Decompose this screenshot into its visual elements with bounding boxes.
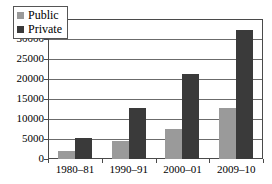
x-tick-label: 2009–10 xyxy=(209,163,263,183)
x-tick-mark xyxy=(156,159,157,163)
legend-item-private: Private xyxy=(17,22,62,36)
bar-public-2000–01 xyxy=(165,129,182,159)
legend-label-public: Public xyxy=(28,9,59,21)
x-tick-label: 1980–81 xyxy=(48,163,102,183)
x-tick-label: 2000–01 xyxy=(156,163,210,183)
bar-private-2009–10 xyxy=(236,30,253,159)
legend-swatch-public-icon xyxy=(17,12,24,19)
bar-chart: 05000100001500020000250003000035000 Publ… xyxy=(0,0,272,184)
bar-public-2009–10 xyxy=(219,108,236,159)
bar-group xyxy=(209,19,263,159)
bar-public-1990–91 xyxy=(112,141,129,159)
legend-item-public: Public xyxy=(17,8,62,22)
x-tick-label: 1990–91 xyxy=(102,163,156,183)
bar-private-1990–91 xyxy=(129,108,146,159)
legend-swatch-private-icon xyxy=(17,26,24,33)
x-tick-mark xyxy=(209,159,210,163)
x-tick-mark xyxy=(263,159,264,163)
x-axis: 1980–811990–912000–012009–10 xyxy=(48,163,263,183)
chart-legend: Public Private xyxy=(13,6,68,39)
bar-group xyxy=(48,19,102,159)
bar-private-2000–01 xyxy=(182,74,199,159)
x-tick-mark xyxy=(48,159,49,163)
bar-group xyxy=(102,19,156,159)
bar-public-1980–81 xyxy=(58,151,75,159)
bar-private-1980–81 xyxy=(75,138,92,159)
legend-label-private: Private xyxy=(28,23,62,35)
x-tick-mark xyxy=(102,159,103,163)
bar-group xyxy=(156,19,210,159)
